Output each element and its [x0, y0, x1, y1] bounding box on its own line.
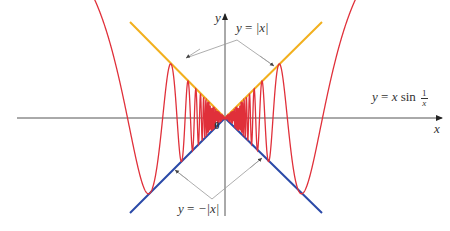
upper-envelope-line	[130, 22, 322, 118]
origin-label: 0	[214, 120, 220, 131]
upper-envelope-label: yy = = |x|	[236, 21, 269, 34]
curve-label: y = x sin 1x	[372, 89, 428, 108]
figure: y x 0 yy = = |x| y = −|x| y = x sin 1x	[0, 0, 450, 231]
x-axis-label: x	[434, 122, 440, 135]
plot	[0, 0, 450, 231]
lower-leader	[175, 158, 262, 199]
y-axis-label: y	[215, 11, 221, 24]
upper-leader	[186, 40, 274, 66]
lower-envelope-label: y = −|x|	[178, 202, 219, 215]
